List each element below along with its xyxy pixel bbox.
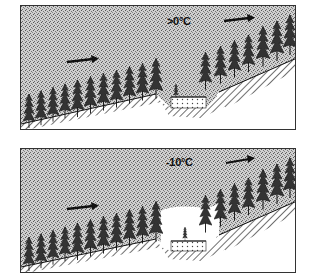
cold-scene-illustration: [21, 149, 296, 273]
clearing-deposit: [171, 97, 206, 108]
panel-cold: -10°C: [20, 148, 296, 273]
warm-scene-illustration: [21, 6, 296, 130]
clearing-deposit: [171, 241, 206, 251]
temperature-label: -10°C: [166, 156, 193, 168]
panel-warm: >0°C: [20, 5, 296, 130]
temperature-label: >0°C: [167, 15, 191, 27]
